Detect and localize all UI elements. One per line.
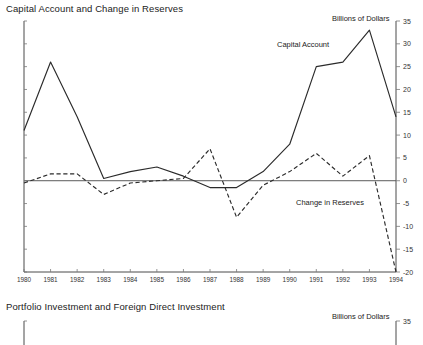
y-tick-label: 20 xyxy=(403,86,411,93)
panel2-y-tick-label: 35 xyxy=(403,318,411,325)
portfolio-investment-chart: 35 xyxy=(0,297,423,345)
x-tick-label: 1988 xyxy=(229,276,244,283)
y-tick-label: 30 xyxy=(403,40,411,47)
x-tick-label: 1990 xyxy=(283,276,298,283)
x-tick-label: 1986 xyxy=(176,276,191,283)
x-tick-label: 1985 xyxy=(150,276,165,283)
y-tick-label: -5 xyxy=(403,200,409,207)
x-tick-label: 1994 xyxy=(389,276,404,283)
y-tick-label: 35 xyxy=(403,18,411,25)
x-tick-label: 1984 xyxy=(123,276,138,283)
y-tick-label: 0 xyxy=(403,177,407,184)
y-tick-label: 10 xyxy=(403,132,411,139)
series-line-change-in-reserves xyxy=(24,149,396,272)
chart-axes xyxy=(24,21,400,272)
series-line-capital-account xyxy=(24,30,396,187)
y-tick-label: -10 xyxy=(403,223,413,230)
x-tick-label: 1989 xyxy=(256,276,271,283)
y-tick-label: -15 xyxy=(403,246,413,253)
y-tick-label: 5 xyxy=(403,154,407,161)
chart-series-group xyxy=(24,30,396,272)
x-tick-label: 1980 xyxy=(17,276,32,283)
x-tick-label: 1991 xyxy=(309,276,324,283)
x-tick-label: 1982 xyxy=(70,276,85,283)
y-tick-label: 25 xyxy=(403,63,411,70)
x-tick-label: 1983 xyxy=(97,276,112,283)
x-tick-label: 1993 xyxy=(362,276,377,283)
chart-2-axes: 35 xyxy=(24,318,411,345)
x-tick-label: 1981 xyxy=(43,276,58,283)
x-tick-label: 1987 xyxy=(203,276,218,283)
y-tick-label: -20 xyxy=(403,269,413,276)
figure-container: Capital Account and Change in Reserves B… xyxy=(0,0,423,345)
chart-tick-labels: -20-15-10-505101520253035198019811982198… xyxy=(17,18,413,284)
y-tick-label: 15 xyxy=(403,109,411,116)
x-tick-label: 1992 xyxy=(336,276,351,283)
capital-account-chart: -20-15-10-505101520253035198019811982198… xyxy=(0,0,423,295)
